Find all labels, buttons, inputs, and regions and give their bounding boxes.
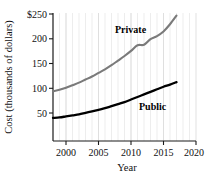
x-tick-label-2015: 2015 <box>154 147 174 158</box>
y-tick-label-250: $250 <box>27 9 47 20</box>
x-tick-label-2000: 2000 <box>56 147 76 158</box>
y-tick-label-50: 50 <box>37 108 47 119</box>
series-annotation-public: Public <box>139 101 167 112</box>
chart-figure: $250 200 150 100 50 2000 2005 2010 2015 … <box>0 0 212 177</box>
x-tick-label-2005: 2005 <box>89 147 109 158</box>
x-tick-label-2020: 2020 <box>184 147 204 158</box>
y-tick-label-100: 100 <box>32 83 47 94</box>
y-axis-title: Cost (thousands of dollars) <box>3 20 15 134</box>
y-tick-label-150: 150 <box>32 58 47 69</box>
x-axis-ticks <box>66 141 196 145</box>
line-chart: $250 200 150 100 50 2000 2005 2010 2015 … <box>0 0 212 177</box>
series-annotation-private: Private <box>115 24 147 35</box>
x-tick-label-2010: 2010 <box>121 147 141 158</box>
y-tick-label-200: 200 <box>32 33 47 44</box>
x-axis-title: Year <box>117 162 137 173</box>
